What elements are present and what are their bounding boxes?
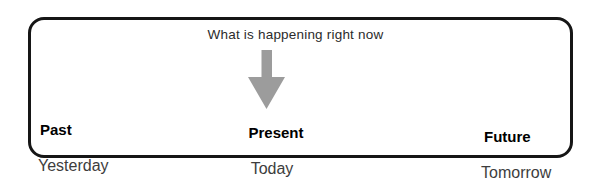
era-label-present: Present xyxy=(248,124,303,141)
day-label-today: Today xyxy=(251,160,294,178)
timeline-diagram: What is happening right now Past Present… xyxy=(0,0,591,191)
era-label-past: Past xyxy=(40,121,72,138)
day-label-yesterday: Yesterday xyxy=(38,157,109,175)
era-label-future: Future xyxy=(484,128,531,145)
caption-text: What is happening right now xyxy=(0,27,591,42)
day-label-tomorrow: Tomorrow xyxy=(481,164,551,182)
down-arrow-icon xyxy=(248,50,285,109)
